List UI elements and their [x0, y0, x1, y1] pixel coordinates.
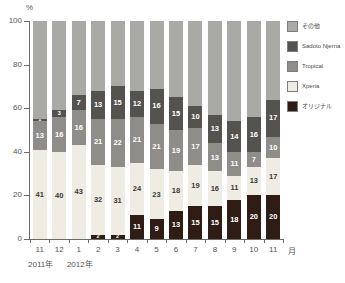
bar-segment[interactable]: 31	[111, 167, 125, 235]
bar-stack[interactable]: 040163	[52, 21, 66, 239]
bar-segment-value: 21	[94, 138, 102, 146]
bar-segment[interactable]: 10	[188, 106, 202, 128]
bar-segment[interactable]: 18	[227, 200, 241, 239]
legend-swatch	[287, 81, 298, 92]
bar-stack[interactable]: 15161313	[208, 21, 222, 239]
bar-stack[interactable]: 2322113	[91, 21, 105, 239]
bar-segment[interactable]: 15	[208, 206, 222, 239]
x-tick-label: 2	[88, 245, 108, 254]
bar-segment[interactable]: 43	[72, 145, 86, 239]
bar-segment-value: 13	[250, 177, 258, 185]
bar-segment[interactable]	[208, 21, 222, 115]
bar-segment[interactable]: 13	[169, 211, 183, 239]
legend-item[interactable]: オリジナル	[287, 100, 345, 112]
bar-segment-value: 10	[269, 144, 277, 152]
bar-segment[interactable]: 2	[91, 235, 105, 239]
bar-segment[interactable]	[33, 21, 47, 119]
bar-segment[interactable]: 41	[33, 150, 47, 239]
bar-segment[interactable]: 18	[169, 171, 183, 210]
legend-swatch	[287, 101, 298, 112]
bar-segment[interactable]: 15	[111, 86, 125, 119]
legend-item[interactable]: Tropical	[287, 60, 345, 72]
bar-segment-value: 1	[38, 119, 41, 121]
bar-segment[interactable]	[169, 21, 183, 97]
bar-segment[interactable]: 17	[188, 128, 202, 165]
bar-segment[interactable]	[266, 21, 280, 99]
bar-segment[interactable]	[91, 21, 105, 91]
bar-segment[interactable]: 2	[111, 235, 125, 239]
bar-segment[interactable]	[188, 21, 202, 106]
bar-stack[interactable]: 041131	[33, 21, 47, 239]
bar-segment[interactable]: 13	[208, 143, 222, 171]
bar-segment[interactable]: 11	[227, 152, 241, 176]
bar-segment[interactable]: 16	[208, 171, 222, 206]
bar-segment[interactable]: 13	[247, 167, 261, 195]
bar-segment[interactable]: 11	[227, 176, 241, 200]
bar-segment[interactable]: 1	[33, 119, 47, 121]
x-tick-label: 1	[69, 245, 89, 254]
bar-segment[interactable]: 21	[130, 117, 144, 163]
bar-segment[interactable]	[227, 21, 241, 121]
bar-segment[interactable]: 19	[188, 165, 202, 206]
bar-segment[interactable]: 11	[130, 215, 144, 239]
bar-segment[interactable]: 3	[52, 110, 66, 117]
bar-segment[interactable]: 16	[52, 117, 66, 152]
y-tick-label: 0	[0, 234, 22, 243]
bar-segment[interactable]	[150, 21, 164, 89]
bar-segment[interactable]: 10	[266, 137, 280, 159]
bar-stack[interactable]: 13181915	[169, 21, 183, 239]
bar-segment[interactable]: 16	[247, 117, 261, 152]
bar-segment[interactable]	[111, 21, 125, 86]
bar-segment[interactable]: 17	[266, 100, 280, 137]
bar-segment[interactable]: 21	[150, 124, 164, 170]
bar-segment-value: 16	[152, 102, 160, 110]
bar-segment[interactable]	[52, 21, 66, 110]
bar-stack[interactable]: 2013716	[247, 21, 261, 239]
bar-segment[interactable]: 15	[169, 97, 183, 130]
legend-item[interactable]: Sadoto Njerna	[287, 40, 345, 52]
y-tick-label: 100	[0, 16, 22, 25]
bar-segment[interactable]: 22	[111, 119, 125, 167]
bar-segment-value: 10	[191, 113, 199, 121]
bar-stack[interactable]: 18111114	[227, 21, 241, 239]
bar-segment[interactable]: 23	[150, 169, 164, 219]
bar-segment[interactable]: 15	[188, 206, 202, 239]
x-tick-label: 10	[244, 245, 264, 254]
bar-segment[interactable]: 16	[150, 89, 164, 124]
bar-stack[interactable]: 9232116	[150, 21, 164, 239]
bar-segment[interactable]	[247, 21, 261, 117]
bar-segment[interactable]: 13	[33, 121, 47, 149]
bar-stack[interactable]: 15191710	[188, 21, 202, 239]
bar-stack[interactable]: 043167	[72, 21, 86, 239]
bar-segment-value: 13	[211, 125, 219, 133]
bar-segment[interactable]: 19	[169, 130, 183, 171]
bar-segment[interactable]: 7	[72, 95, 86, 110]
bar-segment-value: 13	[36, 132, 44, 140]
bar-segment[interactable]: 14	[227, 121, 241, 152]
bar-segment[interactable]: 20	[266, 195, 280, 239]
x-tick-mark	[283, 239, 284, 243]
bar-segment[interactable]: 16	[72, 110, 86, 145]
bar-segment[interactable]: 12	[130, 91, 144, 117]
legend-item[interactable]: Xperia	[287, 80, 345, 92]
bar-segment[interactable]: 17	[266, 158, 280, 195]
legend-item[interactable]: その他	[287, 20, 345, 32]
bar-segment[interactable]: 20	[247, 195, 261, 239]
bar-segment[interactable]: 24	[130, 163, 144, 215]
legend-label: その他	[302, 23, 320, 29]
x-tick-mark	[205, 239, 206, 243]
bar-segment[interactable]: 21	[91, 119, 105, 165]
bar-stack[interactable]: 11242112	[130, 21, 144, 239]
bar-segment[interactable]: 40	[52, 152, 66, 239]
bar-segment[interactable]: 9	[150, 219, 164, 239]
bar-segment[interactable]: 32	[91, 165, 105, 235]
bar-segment[interactable]: 13	[208, 115, 222, 143]
bar-stack[interactable]: 2312215	[111, 21, 125, 239]
bar-segment[interactable]	[130, 21, 144, 91]
bar-segment[interactable]	[72, 21, 86, 95]
x-tick-mark	[108, 239, 109, 243]
bar-segment[interactable]: 7	[247, 152, 261, 167]
bar-segment[interactable]: 13	[91, 91, 105, 119]
chart-legend: その他Sadoto NjernaTropicalXperiaオリジナル	[287, 20, 345, 120]
bar-stack[interactable]: 20171017	[266, 21, 280, 239]
